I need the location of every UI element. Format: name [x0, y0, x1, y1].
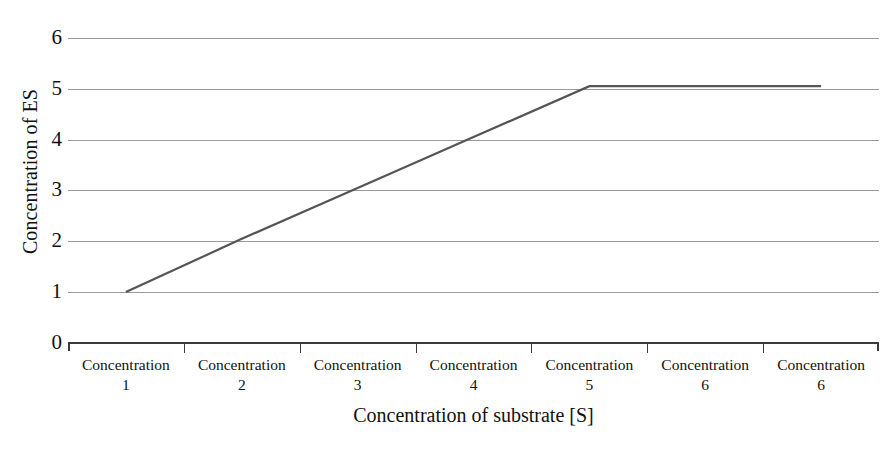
category-number: 1	[68, 375, 184, 395]
x-axis-category-labels: Concentration1Concentration2Concentratio…	[68, 355, 879, 403]
y-axis-tick-label: 4	[34, 129, 62, 150]
category-number: 5	[531, 375, 647, 395]
y-axis-tick-labels: 0123456	[34, 0, 62, 462]
category-name: Concentration	[300, 355, 416, 375]
category-name: Concentration	[531, 355, 647, 375]
category-number: 6	[763, 375, 879, 395]
x-axis-category-label: Concentration1	[68, 355, 184, 403]
x-axis-category-label: Concentration4	[416, 355, 532, 403]
y-axis-tick-label: 3	[34, 179, 62, 200]
chart-container: Concentration of ES 0123456 Concentratio…	[0, 0, 893, 462]
y-axis-tick-label: 6	[34, 27, 62, 48]
y-axis-tick-label: 2	[34, 230, 62, 251]
category-number: 6	[647, 375, 763, 395]
category-name: Concentration	[763, 355, 879, 375]
y-axis-tick-label: 0	[34, 332, 62, 353]
category-name: Concentration	[68, 355, 184, 375]
category-number: 4	[416, 375, 532, 395]
y-axis-tick-label: 1	[34, 281, 62, 302]
y-axis-tick-label: 5	[34, 78, 62, 99]
category-name: Concentration	[647, 355, 763, 375]
category-number: 2	[184, 375, 300, 395]
category-name: Concentration	[416, 355, 532, 375]
x-axis-category-label: Concentration5	[531, 355, 647, 403]
category-number: 3	[300, 375, 416, 395]
category-name: Concentration	[184, 355, 300, 375]
x-axis-category-label: Concentration2	[184, 355, 300, 403]
x-axis-category-label: Concentration6	[647, 355, 763, 403]
x-axis-category-label: Concentration3	[300, 355, 416, 403]
x-axis-title: Concentration of substrate [S]	[68, 404, 879, 427]
x-axis-category-label: Concentration6	[763, 355, 879, 403]
